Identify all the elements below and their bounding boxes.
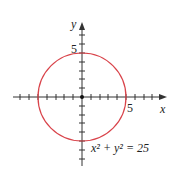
x-tick-label: 5 bbox=[127, 101, 133, 115]
equation-label: x² + y² = 25 bbox=[90, 141, 149, 155]
x-axis-label: x bbox=[159, 102, 166, 116]
y-axis-arrow-icon bbox=[79, 22, 85, 30]
origin-point bbox=[80, 95, 84, 99]
y-tick-label: 5 bbox=[71, 42, 77, 56]
x-axis-arrow-icon bbox=[159, 94, 167, 100]
circle-graph: y 5 5 x x² + y² = 25 bbox=[0, 0, 173, 178]
y-axis-label: y bbox=[70, 17, 77, 31]
